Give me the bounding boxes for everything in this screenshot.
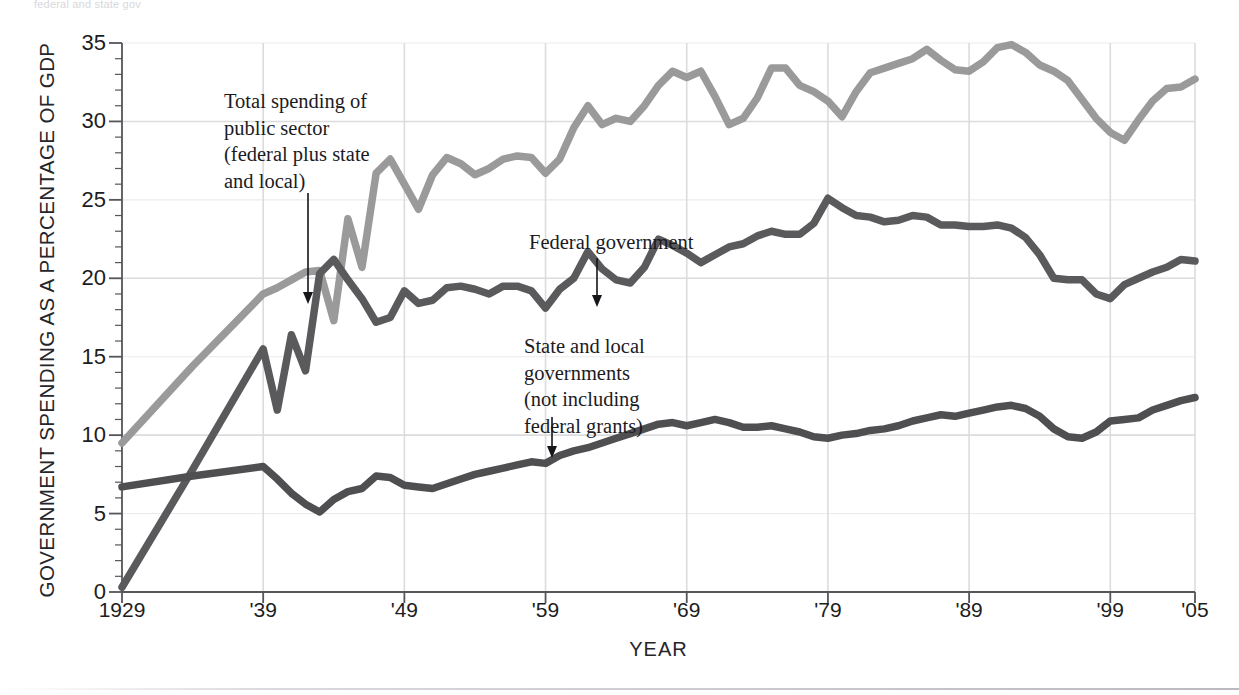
annotation-federal-government: Federal government xyxy=(529,229,694,256)
y-tick-label: 20 xyxy=(58,267,106,289)
arrow-total xyxy=(303,193,313,304)
x-tick-label: 1929 xyxy=(99,598,146,622)
x-tick-label: '05 xyxy=(1181,598,1208,622)
y-tick-label: 15 xyxy=(58,346,106,368)
y-tick-label: 5 xyxy=(58,503,106,525)
x-tick-label: '59 xyxy=(532,598,559,622)
annotation-total-spending: Total spending of public sector (federal… xyxy=(224,88,370,195)
y-tick-label: 35 xyxy=(58,32,106,54)
x-tick-label: '79 xyxy=(814,598,841,622)
y-tick-label: 10 xyxy=(58,424,106,446)
x-tick-label: '99 xyxy=(1097,598,1124,622)
annotation-state-local-governments: State and local governments (not includi… xyxy=(524,333,645,440)
x-tick-label: '49 xyxy=(391,598,418,622)
x-tick-label: '69 xyxy=(673,598,700,622)
y-tick-label: 25 xyxy=(58,189,106,211)
x-tick-label: '39 xyxy=(249,598,276,622)
x-tick-label: '89 xyxy=(955,598,982,622)
chart-figure: federal and state gov GOVERNMENT SPENDIN… xyxy=(0,0,1239,695)
y-tick-label: 30 xyxy=(58,110,106,132)
bottom-divider xyxy=(0,688,1239,690)
x-axis-title: YEAR xyxy=(122,638,1195,661)
